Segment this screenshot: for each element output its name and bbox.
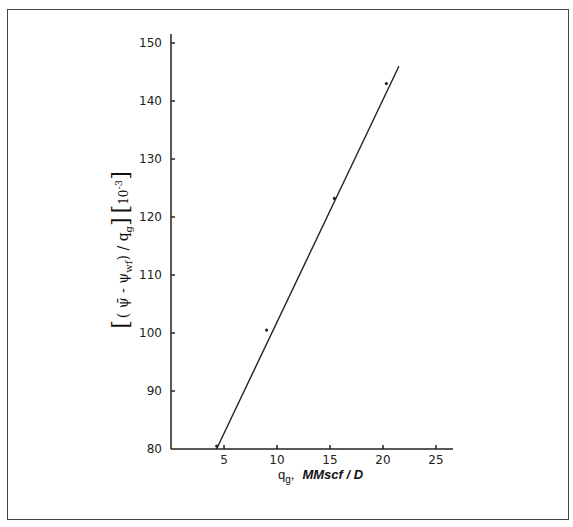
- y-tick-label: 90: [147, 384, 162, 398]
- y-tick-label: 80: [147, 442, 162, 456]
- y-label-main: ( ψ̄ - ψ: [115, 273, 131, 319]
- x-tick-label: 20: [375, 453, 390, 467]
- y-scale-exponent: -3: [113, 180, 124, 190]
- x-axis-label: qg,MMscf / D: [278, 467, 364, 485]
- data-series: [215, 66, 399, 449]
- y-scale-bracket-close: ]: [108, 171, 133, 180]
- y-tick-label: 150: [139, 36, 162, 50]
- y-label-bracket-close: ]: [108, 217, 133, 226]
- axes: [171, 34, 453, 449]
- x-label-comma: ,: [291, 467, 295, 482]
- y-axis-ticks: 8090100110120130140150: [139, 36, 175, 456]
- x-tick-label: 10: [269, 453, 284, 467]
- y-scale-base: 10: [117, 190, 131, 205]
- x-label-unit: MMscf / D: [302, 467, 363, 482]
- x-tick-label: 25: [428, 453, 443, 467]
- y-tick-label: 100: [139, 326, 162, 340]
- data-point: [385, 82, 388, 85]
- y-label-tail: ) / q: [115, 232, 131, 260]
- y-tick-label: 120: [139, 210, 162, 224]
- x-label-symbol: q: [278, 467, 285, 482]
- y-label-bracket-open: [: [108, 320, 133, 329]
- y-tick-label: 140: [139, 94, 162, 108]
- chart-plot: 8090100110120130140150 510152025 qg,MMsc…: [0, 0, 573, 527]
- fit-line: [217, 66, 399, 449]
- y-scale-bracket-open: [: [108, 205, 133, 214]
- data-point: [265, 329, 268, 332]
- x-tick-label: 5: [220, 453, 228, 467]
- y-tick-label: 130: [139, 152, 162, 166]
- svg-text:[( ψ̄ - ψwf) / qg][10-3]: [( ψ̄ - ψwf) / qg][10-3]: [108, 171, 134, 329]
- y-axis-label: [( ψ̄ - ψwf) / qg][10-3]: [108, 171, 134, 329]
- y-tick-label: 110: [139, 268, 162, 282]
- x-tick-label: 15: [322, 453, 337, 467]
